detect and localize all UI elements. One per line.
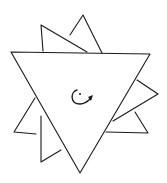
spike-top-right <box>70 15 102 53</box>
spike-left-upper <box>14 98 36 134</box>
sketch-diagram <box>0 0 167 183</box>
spike-right-lower <box>106 112 148 133</box>
rotation-arrow-icon <box>72 90 93 104</box>
main-triangle <box>11 52 150 173</box>
spike-top-left <box>41 25 87 52</box>
spike-right-upper <box>113 80 158 121</box>
